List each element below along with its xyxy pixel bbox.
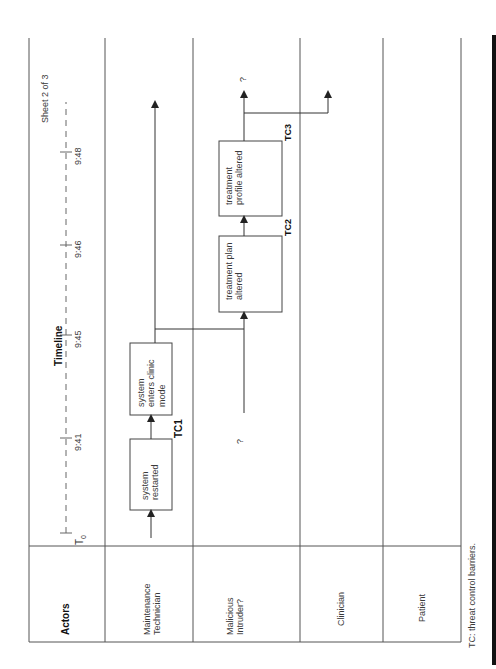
t-label: T	[74, 539, 85, 545]
actor-label-line1: Malicious	[225, 597, 235, 635]
actor-maintenance-technician: Maintenance Technician	[142, 583, 163, 635]
event-line2: enters clinic	[146, 359, 156, 407]
page-edge-bar	[492, 35, 496, 665]
event-line3: mode	[157, 359, 167, 407]
event-line2: profile altered	[234, 150, 244, 205]
arrow-profile-to-clinician	[244, 94, 328, 113]
patent-figure: Sheet 2 of 3 Timeline T0 9:41 9:45 9:46 …	[0, 0, 496, 669]
event-text-treatment-plan: treatment plan altered	[224, 242, 245, 300]
timeline-title: Timeline	[53, 326, 65, 366]
tick-label-948: 9:48	[73, 147, 83, 165]
actor-malicious-intruder: Malicious Intruder?	[225, 597, 246, 635]
event-line2: restarted	[150, 464, 160, 500]
t-subscript: 0	[80, 535, 87, 539]
barrier-tc3: TC3	[283, 124, 293, 141]
event-line1: treatment	[224, 150, 234, 205]
actor-label-line2: Intruder?	[235, 597, 245, 635]
event-text-treatment-profile: treatment profile altered	[224, 150, 245, 205]
unknown-marker-intruder: ?	[235, 439, 245, 444]
actor-label-line2: Technician	[152, 583, 162, 635]
actor-clinician: Clinician	[336, 592, 346, 626]
tick-label-946: 9:46	[73, 240, 83, 258]
timeline-axis	[60, 102, 72, 533]
footnote-tc-definition: TC: threat control barriers.	[467, 543, 477, 648]
barrier-tc2: TC2	[283, 219, 293, 236]
tick-label-945: 9:45	[73, 330, 83, 348]
event-text-clinic-mode: system enters clinic mode	[136, 359, 167, 407]
actor-patient: Patient	[417, 594, 427, 622]
event-text-system-restarted: system restarted	[140, 464, 161, 500]
unknown-marker-outcome: ?	[238, 77, 248, 82]
actors-header: Actors	[60, 603, 72, 635]
sheet-label: Sheet 2 of 3	[40, 74, 50, 123]
barrier-tc1: TC1	[173, 419, 185, 438]
timeline-start-label: T0	[74, 535, 88, 545]
tick-label-941: 9:41	[73, 433, 83, 451]
actor-label-line1: Maintenance	[142, 583, 152, 635]
event-line1: treatment plan	[224, 242, 234, 300]
event-line1: system	[136, 359, 146, 407]
event-line1: system	[140, 464, 150, 500]
event-line2: altered	[234, 242, 244, 300]
